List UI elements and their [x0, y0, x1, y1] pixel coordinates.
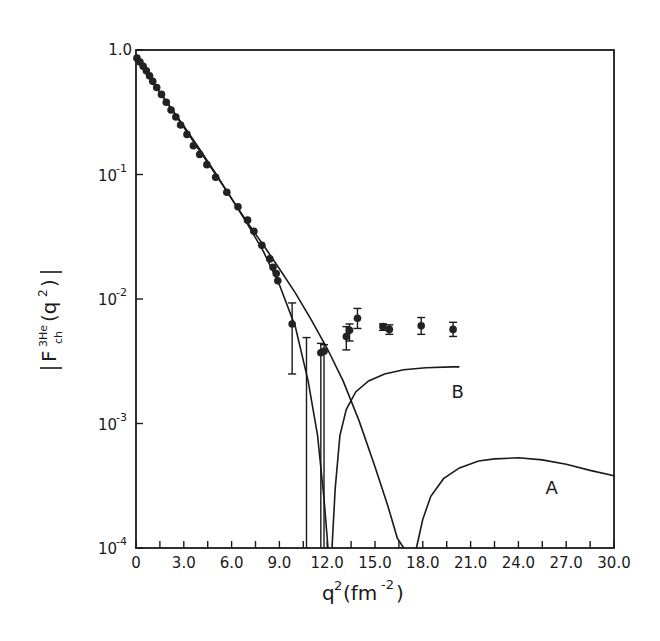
y-tick-label: 10 — [98, 167, 117, 185]
data-point — [223, 188, 231, 196]
data-point — [266, 255, 274, 263]
x-tick-label: 6.0 — [220, 554, 244, 572]
data-point — [183, 131, 191, 139]
plot-frame — [136, 50, 614, 548]
data-point — [386, 326, 394, 334]
data-point — [162, 99, 170, 107]
data-point — [320, 348, 328, 356]
data-point — [196, 151, 204, 159]
y-axis-label-sub: ch — [52, 331, 65, 344]
x-tick-label: 24.0 — [502, 554, 535, 572]
y-axis-label-arg-close: ) — [37, 279, 61, 287]
curve-B — [136, 58, 328, 548]
curve-labels: AB — [451, 381, 558, 498]
data-point — [203, 161, 211, 169]
x-tick-label: 3.0 — [172, 554, 196, 572]
y-axis-label: F 3He ch (q 2 ) — [36, 272, 65, 368]
x-axis-label: q 2 (fm -2 ) — [322, 577, 404, 605]
curve-label-A: A — [545, 477, 558, 498]
data-point — [212, 173, 220, 181]
y-axis-label-sup: 3He — [37, 325, 50, 347]
data-point — [274, 277, 282, 285]
data-point — [244, 216, 252, 224]
data-point — [250, 227, 258, 235]
curve-A — [136, 58, 404, 548]
x-axis-ticks: 03.06.09.012.015.018.021.024.027.030.0 — [131, 541, 630, 572]
y-tick-label-exponent: -4 — [116, 535, 127, 548]
data-point — [272, 270, 280, 278]
y-tick-label: 10 — [98, 291, 117, 309]
x-tick-label: 0 — [131, 554, 141, 572]
y-axis-label-arg-sup: 2 — [36, 289, 50, 297]
x-axis-label-q: q — [322, 581, 335, 605]
x-axis-label-close: ) — [396, 581, 404, 605]
x-tick-label: 9.0 — [267, 554, 291, 572]
x-axis-label-sup2: 2 — [334, 578, 342, 593]
model-curves — [136, 58, 614, 548]
chart-canvas: 03.06.09.012.015.018.021.024.027.030.0 1… — [0, 0, 660, 641]
x-axis-label-unit: (fm — [343, 581, 377, 605]
data-point — [449, 326, 457, 334]
curve-A — [416, 458, 614, 548]
y-tick-label-exponent: -2 — [116, 286, 127, 299]
x-tick-label: 12.0 — [310, 554, 343, 572]
y-tick-label-exponent: -1 — [116, 162, 127, 175]
data-point — [190, 142, 198, 150]
y-tick-label-exponent: -3 — [116, 411, 127, 424]
x-tick-label: 30.0 — [597, 554, 630, 572]
curve-B — [332, 367, 459, 548]
x-tick-label: 18.0 — [406, 554, 439, 572]
data-points — [133, 54, 457, 548]
x-tick-label: 27.0 — [549, 554, 582, 572]
data-point — [354, 314, 362, 322]
y-tick-label: 1.0 — [108, 41, 132, 59]
data-point — [234, 203, 242, 211]
data-point — [417, 322, 425, 330]
data-point — [158, 91, 166, 99]
x-tick-label: 15.0 — [358, 554, 391, 572]
x-tick-label: 21.0 — [454, 554, 487, 572]
y-axis-label-F: F — [37, 350, 61, 362]
data-point — [167, 106, 175, 114]
curve-label-B: B — [451, 381, 463, 402]
data-point — [346, 327, 354, 335]
data-point — [288, 320, 296, 328]
data-point — [177, 121, 185, 129]
axes-frame — [136, 50, 614, 548]
x-axis-label-sup-neg2: -2 — [381, 577, 394, 592]
y-tick-label: 10 — [98, 540, 117, 558]
y-tick-label: 10 — [98, 416, 117, 434]
data-point — [153, 84, 161, 92]
data-point — [258, 241, 266, 249]
y-axis-label-arg: (q — [37, 302, 61, 323]
data-point — [172, 113, 180, 121]
